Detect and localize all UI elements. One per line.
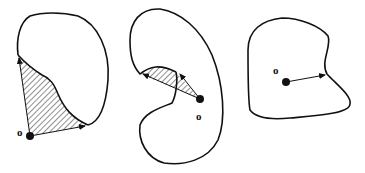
panel-middle: o bbox=[130, 9, 223, 164]
origin-label: o bbox=[196, 110, 202, 122]
panel-right: o bbox=[248, 18, 350, 119]
ray bbox=[286, 75, 325, 82]
hatched-region bbox=[140, 67, 200, 99]
boundary-curve bbox=[248, 18, 350, 119]
boundary-curve bbox=[130, 9, 223, 164]
origin-label: o bbox=[273, 64, 279, 76]
origin-label: o bbox=[17, 126, 23, 138]
panel-left: o bbox=[17, 13, 108, 140]
origin-point bbox=[26, 132, 34, 140]
origin-point bbox=[196, 95, 204, 103]
diagram: o o o bbox=[0, 0, 365, 173]
origin-point bbox=[282, 78, 290, 86]
